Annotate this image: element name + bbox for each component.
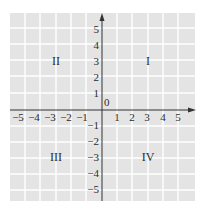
- y-tick: −4: [87, 167, 99, 179]
- coordinate-plane: 0 −5 −4 −3 −2 −1 1 2 3 4 5 5 4 3 2 1 −1 …: [0, 0, 203, 213]
- quadrant-label-i: I: [146, 54, 150, 68]
- x-tick: 4: [160, 111, 166, 123]
- x-tick: −1: [76, 111, 88, 123]
- x-tick: −5: [12, 111, 24, 123]
- x-tick: 3: [144, 111, 150, 123]
- x-tick: −4: [28, 111, 40, 123]
- y-tick: 5: [94, 23, 100, 35]
- y-tick: 2: [94, 71, 100, 83]
- x-tick: −2: [60, 111, 72, 123]
- x-tick: 5: [175, 111, 181, 123]
- y-tick: −2: [87, 135, 99, 147]
- x-tick: −3: [44, 111, 56, 123]
- y-tick: 4: [94, 39, 100, 51]
- x-tick: 1: [114, 111, 120, 123]
- y-tick: −3: [87, 151, 99, 163]
- y-tick: −1: [87, 119, 99, 131]
- quadrant-label-iii: III: [50, 150, 62, 164]
- origin-label: 0: [104, 96, 110, 108]
- quadrant-label-iv: IV: [142, 150, 155, 164]
- y-tick: −5: [87, 183, 99, 195]
- x-tick: 2: [129, 111, 135, 123]
- quadrant-label-ii: II: [52, 54, 60, 68]
- y-tick: 3: [94, 55, 100, 67]
- y-tick: 1: [94, 87, 100, 99]
